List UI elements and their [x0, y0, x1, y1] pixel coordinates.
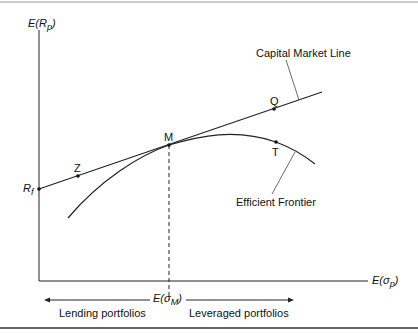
m-label: M: [164, 131, 173, 143]
leveraged-arrow-head: [288, 298, 294, 303]
t-point: [274, 140, 278, 144]
t-label: T: [272, 146, 279, 158]
chart-canvas: [0, 0, 418, 333]
x-axis-label: E(σp): [372, 274, 398, 289]
y-axis-label: E(Rp): [28, 17, 56, 32]
m-point: [167, 143, 171, 147]
capital-market-line: [39, 92, 322, 189]
cml-label: Capital Market Line: [256, 47, 351, 59]
z-point: [76, 174, 80, 178]
q-label: Q: [270, 95, 279, 107]
frontier-label: Efficient Frontier: [236, 196, 316, 208]
lending-portfolios-label: Lending portfolios: [59, 307, 146, 319]
sigma-m-label: E(σM): [153, 292, 182, 307]
z-label: Z: [74, 162, 81, 174]
rf-label: Rf: [23, 182, 34, 197]
lending-arrow-head: [44, 298, 50, 303]
cml-leader-line: [286, 60, 299, 100]
rf-point: [37, 187, 41, 191]
leveraged-portfolios-label: Leveraged portfolios: [189, 307, 289, 319]
q-point: [272, 107, 276, 111]
frontier-leader-line: [272, 152, 295, 194]
